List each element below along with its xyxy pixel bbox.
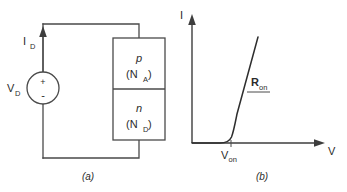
- chart-x-axis-label: V: [328, 145, 336, 157]
- chart-y-axis-arrowhead: [188, 14, 196, 25]
- chart-ron-label-subscript: on: [259, 83, 267, 92]
- circuit-bottom-wire: [43, 140, 139, 158]
- diode-p-doping-open: (N: [126, 68, 138, 80]
- chart-x-axis-arrowhead: [314, 139, 325, 147]
- current-label-subscript: D: [30, 42, 36, 51]
- source-voltage-label-subscript: D: [15, 89, 21, 98]
- figure-root: I D + - V D p (N A ) n (N D: [0, 0, 347, 192]
- current-arrow-head: [39, 26, 47, 37]
- voltage-source-plus: +: [40, 77, 45, 87]
- diode-n-doping-close: ): [148, 118, 152, 130]
- source-voltage-label: V: [7, 82, 15, 94]
- diode-n-doping-open: (N: [126, 118, 138, 130]
- chart-diode-curve: [192, 37, 258, 143]
- iv-characteristic-chart: I V V on R on (b): [180, 9, 336, 182]
- circuit-diagram-group: I D + - V D p (N A ) n (N D: [7, 24, 165, 182]
- caption-b: (b): [256, 171, 268, 182]
- caption-a: (a): [82, 171, 94, 182]
- diode-p-region-label: p: [135, 52, 142, 64]
- voltage-source-minus: -: [41, 89, 45, 101]
- diode-p-doping-close: ): [148, 68, 152, 80]
- chart-von-label: V on: [221, 149, 237, 164]
- chart-ron-label: R on: [247, 76, 270, 92]
- diode-n-region-label: n: [136, 102, 142, 114]
- figure-canvas: I D + - V D p (N A ) n (N D: [0, 0, 347, 192]
- circuit-top-wire: [43, 24, 139, 38]
- chart-ron-label-main: R: [251, 76, 259, 88]
- chart-y-axis-label: I: [180, 9, 183, 21]
- chart-von-label-subscript: on: [229, 155, 237, 164]
- current-label: I: [23, 35, 26, 47]
